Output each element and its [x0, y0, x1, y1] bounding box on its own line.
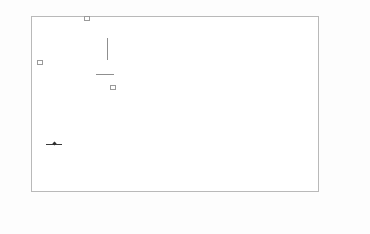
pie-slices — [119, 19, 211, 111]
callout-natm — [110, 85, 116, 90]
legend-line-diamond-icon — [46, 141, 62, 147]
callout-calvert — [84, 16, 90, 21]
chart-figure — [0, 0, 370, 234]
callout-leader-lagging — [96, 74, 114, 75]
inset-pie-chart — [119, 19, 211, 111]
chart-legend — [46, 141, 64, 147]
callout-leader-calvert — [107, 38, 108, 60]
callout-lagging — [37, 60, 43, 65]
